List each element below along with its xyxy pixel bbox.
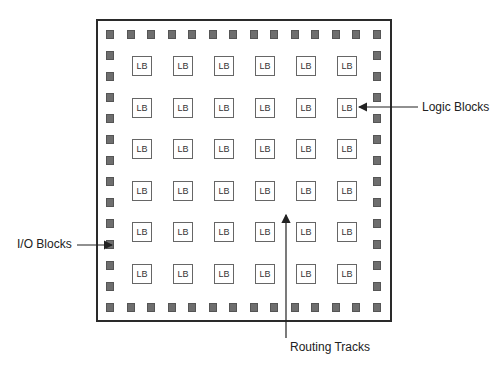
- routing-tracks-label: Routing Tracks: [290, 340, 370, 354]
- logic-blocks-label: Logic Blocks: [422, 100, 489, 114]
- annotation-arrows: [0, 0, 499, 368]
- io-blocks-label: I/O Blocks: [17, 237, 72, 251]
